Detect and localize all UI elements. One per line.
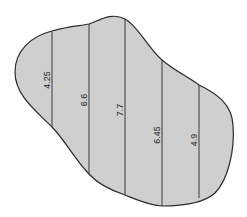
offset-label-3: 7.7 — [116, 104, 125, 117]
offset-label-5: 4.9 — [190, 134, 199, 147]
offset-label-1: 4.25 — [43, 71, 52, 89]
offset-label-4: 6.45 — [153, 126, 162, 144]
offset-label-2: 6.6 — [80, 94, 89, 107]
diagram-canvas: 4.25 6.6 7.7 6.45 4.9 — [0, 0, 247, 217]
